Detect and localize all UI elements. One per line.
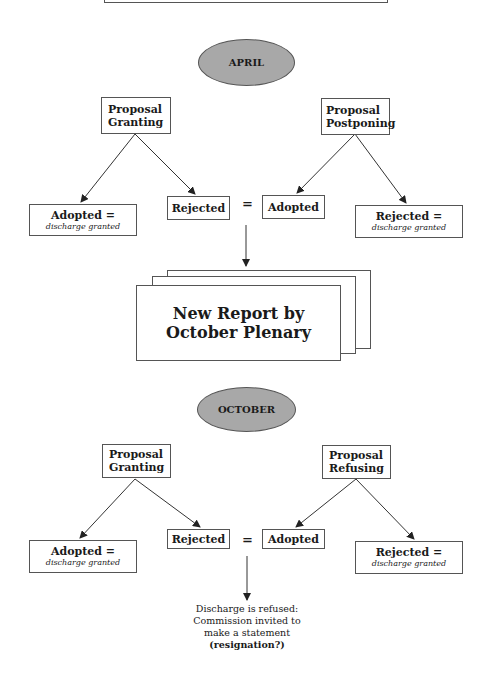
october-right-adopted-box: Adopted [262,529,325,549]
outcome-text: Discharge is refused: Commission invited… [147,603,347,651]
rejected-sub: discharge granted [372,559,446,569]
april-left-rejected-box: Rejected [167,196,230,220]
proposal-line2: Postponing [326,117,395,130]
adopted-title: Adopted [268,201,319,214]
outcome-line4: (resignation?) [147,639,347,651]
october-left-adopted-box: Adopted = discharge granted [29,540,137,573]
adopted-title: Adopted = [51,209,115,222]
rejected-title: Rejected = [376,546,443,559]
adopted-title: Adopted = [51,545,115,558]
report-line2: October Plenary [166,323,311,342]
april-left-adopted-box: Adopted = discharge granted [29,204,137,236]
proposal-line1: Proposal [326,104,380,117]
october-right-rejected-box: Rejected = discharge granted [355,541,463,574]
outcome-line3: make a statement [147,627,347,639]
rejected-title: Rejected = [376,210,443,223]
adopted-sub: discharge granted [46,222,120,232]
october-proposal-refusing-box: Proposal Refusing [322,445,391,479]
resignation-note: (resignation?) [209,639,285,650]
top-cropped-box [104,0,388,3]
proposal-line1: Proposal [109,448,163,461]
proposal-line1: Proposal [108,103,162,116]
october-left-rejected-box: Rejected [167,529,230,549]
proposal-line2: Refusing [329,462,384,475]
april-right-rejected-box: Rejected = discharge granted [355,205,463,238]
rejected-sub: discharge granted [372,223,446,233]
adopted-title: Adopted [268,533,319,546]
april-proposal-granting-box: Proposal Granting [101,97,171,134]
proposal-line2: Granting [108,116,163,129]
april-equals-sign: = [242,196,253,211]
proposal-line1: Proposal [329,449,383,462]
adopted-sub: discharge granted [46,558,120,568]
outcome-line1: Discharge is refused: [147,603,347,615]
new-report-box: New Report by October Plenary [136,285,341,361]
report-line1: New Report by [173,304,304,323]
october-equals-sign: = [242,532,253,547]
april-label: APRIL [229,57,264,68]
october-label: OCTOBER [218,404,275,415]
april-right-adopted-box: Adopted [262,195,325,219]
proposal-line2: Granting [109,461,164,474]
april-proposal-postponing-box: Proposal Postponing [321,98,390,135]
rejected-title: Rejected [172,202,226,215]
october-proposal-granting-box: Proposal Granting [102,444,171,478]
april-phase-ellipse: APRIL [198,39,295,86]
outcome-line2: Commission invited to [147,615,347,627]
october-phase-ellipse: OCTOBER [197,387,296,432]
rejected-title: Rejected [172,533,226,546]
